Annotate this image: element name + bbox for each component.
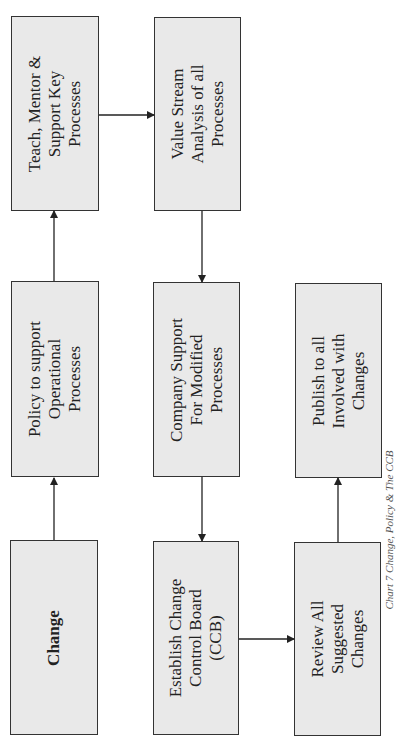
connector-arrows xyxy=(0,0,403,736)
figure-caption: Chart 7 Change, Policy & The CCB xyxy=(383,450,395,609)
